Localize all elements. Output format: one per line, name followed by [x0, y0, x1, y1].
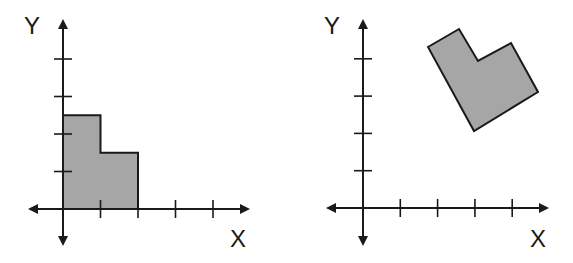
diagram-canvas: [0, 0, 573, 263]
left-coordinate-plane: [28, 19, 250, 246]
right-coordinate-plane: [326, 19, 549, 246]
right-x-axis-label: X: [530, 227, 546, 251]
x-axis-positive-arrow-icon: [539, 203, 549, 213]
y-axis-positive-arrow-icon: [58, 19, 68, 29]
x-axis-negative-arrow-icon: [326, 203, 336, 213]
l-shaped-polygon: [63, 115, 138, 209]
x-axis-positive-arrow-icon: [240, 204, 250, 214]
l-shaped-polygon: [428, 29, 538, 131]
y-axis-positive-arrow-icon: [358, 19, 368, 29]
left-y-axis-label: Y: [24, 14, 40, 38]
right-y-axis-label: Y: [324, 14, 340, 38]
y-axis-negative-arrow-icon: [358, 236, 368, 246]
left-x-axis-label: X: [230, 227, 246, 251]
y-axis-negative-arrow-icon: [58, 236, 68, 246]
x-axis-negative-arrow-icon: [28, 204, 38, 214]
